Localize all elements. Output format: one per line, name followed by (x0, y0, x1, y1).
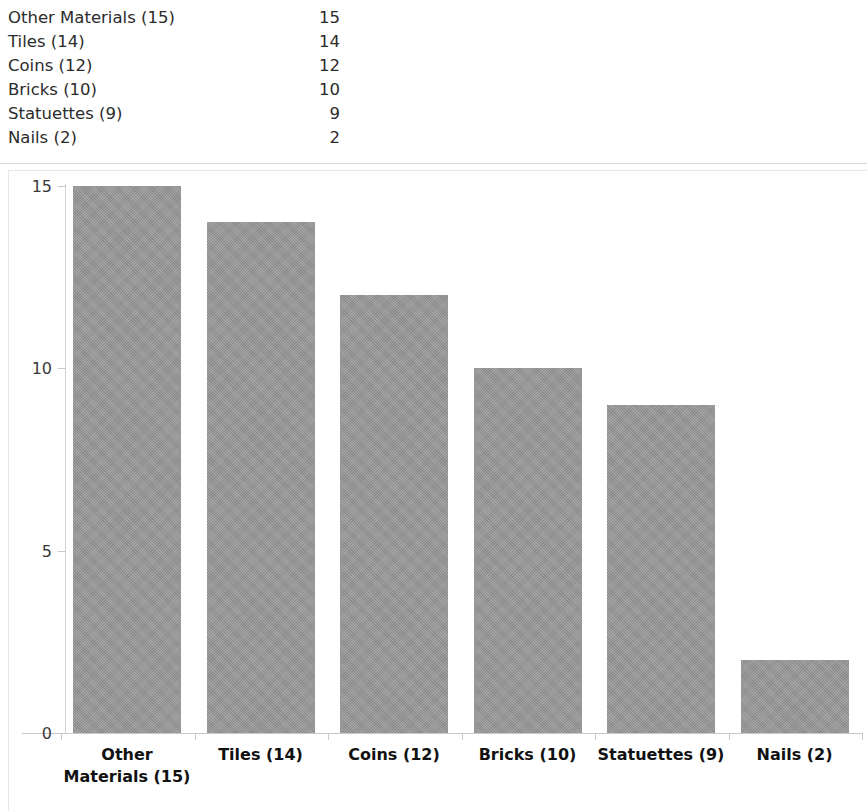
y-axis-tick-mark (58, 733, 66, 734)
x-axis-tick-mark (462, 733, 463, 740)
bar-2[interactable] (340, 295, 448, 733)
y-axis-tick-label: 0 (0, 724, 52, 743)
table-row-label: Nails (2) (8, 126, 77, 150)
bar-4[interactable] (607, 405, 715, 733)
bar-5[interactable] (741, 660, 849, 733)
table-row-value: 9 (240, 102, 340, 126)
y-axis-tick-mark (58, 551, 66, 552)
plot-area: 051015Other Materials (15)Tiles (14)Coin… (0, 170, 867, 811)
bar-1[interactable] (207, 222, 315, 733)
x-axis-label-2: Coins (12) (327, 744, 461, 766)
y-axis-tick-label: 10 (0, 359, 52, 378)
table-row-label: Coins (12) (8, 54, 92, 78)
table-row: Statuettes (9) 9 (0, 102, 867, 126)
table-row: Bricks (10) 10 (0, 78, 867, 102)
y-axis-tick-mark (58, 368, 66, 369)
table-row-label: Other Materials (15) (8, 6, 175, 30)
table-row-value: 14 (240, 30, 340, 54)
table-row-value: 12 (240, 54, 340, 78)
y-axis-tick-mark (58, 186, 66, 187)
data-table: Other Materials (15) 15 Tiles (14) 14 Co… (0, 0, 867, 160)
table-row-label: Bricks (10) (8, 78, 97, 102)
table-row: Tiles (14) 14 (0, 30, 867, 54)
section-divider (0, 163, 867, 164)
x-axis-tick-mark (61, 733, 62, 740)
x-axis-tick-mark (195, 733, 196, 740)
table-row: Nails (2) 2 (0, 126, 867, 150)
x-axis-line (22, 733, 862, 734)
x-axis-label-5: Nails (2) (728, 744, 862, 766)
x-axis-label-1: Tiles (14) (194, 744, 328, 766)
x-axis-label-3: Bricks (10) (461, 744, 595, 766)
x-axis-tick-mark (729, 733, 730, 740)
y-axis-line (65, 184, 66, 734)
table-row: Other Materials (15) 15 (0, 6, 867, 30)
x-axis-tick-mark (595, 733, 596, 740)
table-row-label: Statuettes (9) (8, 102, 122, 126)
x-axis-label-4: Statuettes (9) (594, 744, 728, 766)
x-axis-tick-mark (328, 733, 329, 740)
x-axis-tick-mark (862, 733, 863, 740)
y-axis-tick-label: 15 (0, 177, 52, 196)
table-row-value: 10 (240, 78, 340, 102)
table-row-value: 2 (240, 126, 340, 150)
table-row-value: 15 (240, 6, 340, 30)
y-axis-tick-label: 5 (0, 541, 52, 560)
bar-3[interactable] (474, 368, 582, 733)
x-axis-label-0: Other Materials (15) (60, 744, 194, 788)
table-row-label: Tiles (14) (8, 30, 85, 54)
table-row: Coins (12) 12 (0, 54, 867, 78)
bar-0[interactable] (73, 186, 181, 733)
bar-chart: 051015Other Materials (15)Tiles (14)Coin… (0, 170, 867, 811)
